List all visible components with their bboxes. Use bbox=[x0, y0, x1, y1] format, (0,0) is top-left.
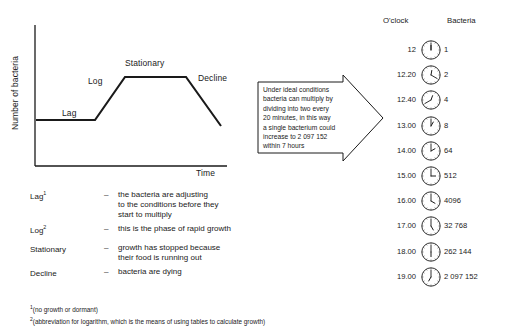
lag-phase-label: Lag bbox=[62, 108, 76, 118]
clock-row-bacteria-count: 8 bbox=[444, 121, 448, 130]
clock-face-icon bbox=[420, 115, 442, 137]
clock-row: 121 bbox=[378, 38, 509, 62]
clock-face-icon bbox=[420, 215, 442, 237]
clock-row-time: 12 bbox=[378, 45, 416, 54]
clock-row-bacteria-count: 32 768 bbox=[444, 221, 467, 230]
clock-row: 14.0064 bbox=[378, 139, 509, 163]
definition-row: Decline – bacteria are dying bbox=[30, 267, 320, 281]
callout-line: a single bacterium could bbox=[263, 123, 345, 132]
clock-row-time: 19.00 bbox=[378, 272, 416, 281]
clock-row-time: 12.20 bbox=[378, 70, 416, 79]
callout-line: 20 minutes, in this way bbox=[263, 113, 345, 122]
definition-row: Lag1 – the bacteria are adjusting to the… bbox=[30, 190, 320, 222]
footnote-marker: 1 bbox=[43, 190, 46, 196]
callout-line: increase to 2 097 152 bbox=[263, 132, 345, 141]
clock-face-icon bbox=[420, 241, 442, 263]
clock-row-bacteria-count: 4 bbox=[444, 95, 448, 104]
bacterial-growth-figure: Number of bacteria Time Lag Log Stationa… bbox=[0, 0, 509, 331]
definition-row: Stationary – growth has stopped because … bbox=[30, 243, 320, 265]
clock-row: 17.0032 768 bbox=[378, 214, 509, 238]
clock-face-icon bbox=[420, 140, 442, 162]
clock-row-bacteria-count: 512 bbox=[444, 171, 457, 180]
clock-row: 18.00262 144 bbox=[378, 240, 509, 264]
growth-curve-graph: Number of bacteria Time Lag Log Stationa… bbox=[0, 0, 250, 185]
footnote-marker: 2 bbox=[43, 224, 46, 230]
footnote-text: (no growth or dormant) bbox=[33, 306, 98, 313]
callout-line: bacteria can multiply by bbox=[263, 94, 345, 103]
clock-row: 13.008 bbox=[378, 114, 509, 138]
doubling-time-table: O'clock Bacteria 12112.20212.40413.00814… bbox=[378, 16, 509, 291]
definition-dash: – bbox=[104, 224, 108, 233]
growth-curve-svg bbox=[0, 0, 250, 185]
definition-term: Lag1 bbox=[30, 190, 46, 201]
definition-dash: – bbox=[104, 243, 108, 252]
clock-row-bacteria-count: 2 bbox=[444, 70, 448, 79]
column-header-time: O'clock bbox=[383, 16, 408, 25]
clock-face-icon bbox=[420, 190, 442, 212]
clock-face-icon bbox=[420, 64, 442, 86]
x-axis-title: Time bbox=[196, 168, 215, 178]
clock-row: 19.002 097 152 bbox=[378, 265, 509, 289]
clock-face-icon bbox=[420, 165, 442, 187]
log-phase-label: Log bbox=[88, 76, 102, 86]
clock-row-bacteria-count: 262 144 bbox=[444, 247, 471, 256]
definition-row: Log2 – this is the phase of rapid growth bbox=[30, 224, 320, 241]
definition-term: Log2 bbox=[30, 224, 46, 235]
clock-row-time: 12.40 bbox=[378, 95, 416, 104]
decline-phase-label: Decline bbox=[198, 73, 227, 83]
clock-row-time: 15.00 bbox=[378, 171, 416, 180]
definition-dash: – bbox=[104, 190, 108, 199]
footnotes: 1(no growth or dormant) 2(abbreviation f… bbox=[30, 303, 265, 326]
definition-term: Decline bbox=[30, 267, 57, 278]
definition-dash: – bbox=[104, 267, 108, 276]
callout-text: Under ideal conditions bacteria can mult… bbox=[263, 85, 345, 151]
clock-face-icon bbox=[420, 89, 442, 111]
column-header-bacteria: Bacteria bbox=[447, 16, 476, 25]
footnote-text: (abbreviation for logarithm, which is th… bbox=[33, 318, 265, 325]
definition-text: bacteria are dying bbox=[118, 267, 182, 277]
clock-row-time: 14.00 bbox=[378, 146, 416, 155]
stationary-phase-label: Stationary bbox=[125, 58, 164, 68]
clock-row-bacteria-count: 64 bbox=[444, 146, 452, 155]
footnote-2: 2(abbreviation for logarithm, which is t… bbox=[30, 315, 265, 327]
clock-face-icon bbox=[420, 266, 442, 288]
clock-row-bacteria-count: 1 bbox=[444, 45, 448, 54]
callout-line: dividing into two every bbox=[263, 104, 345, 113]
y-axis-title: Number of bacteria bbox=[10, 38, 20, 148]
callout-line: within 7 hours bbox=[263, 141, 345, 150]
definition-text: the bacteria are adjusting to the condit… bbox=[118, 190, 219, 221]
clock-face-icon bbox=[420, 39, 442, 61]
clock-row: 12.404 bbox=[378, 88, 509, 112]
callout-arrow: Under ideal conditions bacteria can mult… bbox=[255, 68, 389, 166]
clock-row: 16.004096 bbox=[378, 189, 509, 213]
definition-text: this is the phase of rapid growth bbox=[118, 224, 231, 234]
clock-row-time: 13.00 bbox=[378, 121, 416, 130]
clock-row-bacteria-count: 2 097 152 bbox=[444, 272, 478, 281]
clock-row-time: 17.00 bbox=[378, 221, 416, 230]
clock-row-bacteria-count: 4096 bbox=[444, 196, 461, 205]
growth-curve-path bbox=[36, 77, 221, 126]
clock-row: 12.202 bbox=[378, 63, 509, 87]
definition-term: Stationary bbox=[30, 243, 66, 254]
callout-line: Under ideal conditions bbox=[263, 85, 345, 94]
definition-text: growth has stopped because their food is… bbox=[118, 243, 220, 263]
phase-definitions-list: Lag1 – the bacteria are adjusting to the… bbox=[30, 190, 320, 283]
clock-row: 15.00512 bbox=[378, 164, 509, 188]
footnote-1: 1(no growth or dormant) bbox=[30, 303, 265, 315]
clock-row-time: 16.00 bbox=[378, 196, 416, 205]
clock-row-time: 18.00 bbox=[378, 247, 416, 256]
